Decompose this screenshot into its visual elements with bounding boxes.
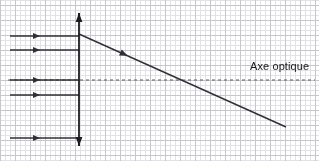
incident-ray-5-arrowhead: [33, 135, 40, 141]
lens-tip-down-icon: [76, 137, 83, 146]
optics-diagram-figure: Axe optique: [0, 0, 319, 161]
optical-axis-label: Axe optique: [250, 60, 309, 72]
incident-ray-1-arrowhead: [33, 33, 40, 39]
incident-rays-group: [10, 33, 79, 141]
lens-tip-up-icon: [76, 13, 83, 22]
incident-ray-4-arrowhead: [33, 92, 40, 98]
incident-ray-3-arrowhead: [33, 77, 40, 83]
incident-ray-2-arrowhead: [33, 47, 40, 53]
refracted-ray-arrowhead: [119, 50, 128, 56]
ray-diagram-svg: [0, 0, 319, 161]
